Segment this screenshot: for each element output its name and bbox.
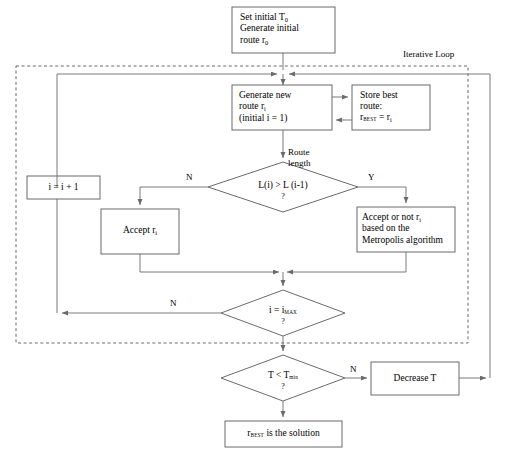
route-length-diamond[interactable]	[208, 162, 358, 212]
init-box[interactable]	[232, 7, 335, 53]
route-length-no-label: N	[186, 172, 193, 182]
temp-diamond[interactable]	[221, 355, 345, 401]
imax-diamond[interactable]	[221, 290, 345, 336]
imax-no-label: N	[170, 298, 177, 308]
flowchart-graphics	[0, 0, 505, 456]
metropolis-box[interactable]	[357, 207, 455, 252]
iterative-loop-label: Iterative Loop	[403, 49, 454, 59]
store-best-box[interactable]	[352, 85, 430, 130]
decrease-temp-box[interactable]	[371, 362, 459, 395]
route-length-yes-label: Y	[368, 172, 375, 182]
flowchart-canvas: Set initial T0 Generate initial route r0…	[0, 0, 505, 456]
temp-no-label: N	[350, 364, 357, 374]
increment-box[interactable]	[27, 176, 100, 199]
generate-route-box[interactable]	[232, 85, 332, 130]
solution-box[interactable]	[225, 421, 342, 447]
accept-box[interactable]	[101, 209, 179, 254]
